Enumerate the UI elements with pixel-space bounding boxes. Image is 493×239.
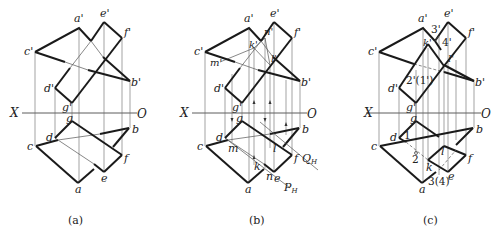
label-b-prime: b' xyxy=(475,76,485,89)
triangle-v-edge xyxy=(35,28,91,52)
label-a: a xyxy=(75,183,82,196)
label-d: d xyxy=(216,131,223,144)
label-e: e xyxy=(274,172,281,185)
label-a: a xyxy=(419,183,426,196)
label-3-4: 3(4) xyxy=(428,175,450,187)
label-f: f xyxy=(123,152,130,165)
label-2-1-prime: 2'(1') xyxy=(406,74,433,86)
label-f-prime: f' xyxy=(123,26,131,39)
label-b: b xyxy=(476,123,483,136)
label-d-prime: d' xyxy=(388,82,398,95)
caption-c: (c) xyxy=(423,214,438,227)
axis-o-label: O xyxy=(307,107,317,121)
caption-a: (a) xyxy=(68,214,83,227)
label-k: k xyxy=(426,161,433,174)
label-3-prime: 3' xyxy=(431,23,441,35)
label-c: c xyxy=(27,140,33,153)
label-c-prime: c' xyxy=(368,45,377,58)
label-f: f xyxy=(467,152,474,165)
caption-b: (b) xyxy=(249,214,265,227)
label-b: b xyxy=(132,123,139,136)
label-m: m xyxy=(228,142,238,155)
label-d: d xyxy=(46,131,53,144)
label-e-prime: e' xyxy=(444,7,454,20)
label-e-prime: e' xyxy=(100,7,110,20)
axis-o-label: O xyxy=(137,107,147,121)
label-c-prime: c' xyxy=(24,45,33,58)
label-1: 1 xyxy=(404,129,411,141)
label-g: g xyxy=(410,112,417,125)
label-b-prime: b' xyxy=(131,76,141,89)
label-n: n xyxy=(266,170,273,183)
axis-x-label: X xyxy=(179,106,189,120)
panel-a: a' e' f' c' b' d' g' g d c b f e a X O (… xyxy=(9,7,147,227)
label-f-prime: f' xyxy=(467,26,475,39)
label-l: l xyxy=(441,145,445,158)
label-d: d xyxy=(390,131,397,144)
label-l-prime: l' xyxy=(271,53,277,64)
label-l: l xyxy=(273,142,277,155)
label-b: b xyxy=(302,123,309,136)
panel-b: a' e' f' c' b' d' g' k' n' m' l' g d c b… xyxy=(179,7,318,227)
label-d-prime: d' xyxy=(44,82,54,95)
label-c-prime: c' xyxy=(194,45,203,58)
projection-diagram: a' e' f' c' b' d' g' g d c b f e a X O (… xyxy=(0,0,493,239)
label-p-h: PH xyxy=(283,181,298,195)
label-k-prime: k' xyxy=(249,39,258,50)
panel-c: a' e' f' c' b' d' g' k' l' 3' 4' 2'(1') … xyxy=(363,7,491,227)
label-e-prime: e' xyxy=(270,7,280,20)
label-4-prime: 4' xyxy=(442,36,452,48)
label-a-prime: a' xyxy=(74,12,84,25)
label-g: g xyxy=(236,112,243,125)
label-q-h: QH xyxy=(302,152,318,166)
label-d-prime: d' xyxy=(214,82,224,95)
axis-o-label: O xyxy=(481,107,491,121)
label-b-prime: b' xyxy=(301,76,311,89)
label-g: g xyxy=(66,112,73,125)
label-l-prime: l' xyxy=(448,53,454,64)
label-n-prime: n' xyxy=(264,26,273,37)
axis-x-label: X xyxy=(363,106,373,120)
label-a-prime: a' xyxy=(244,12,254,25)
label-c: c xyxy=(197,140,203,153)
label-c: c xyxy=(371,140,377,153)
label-a-prime: a' xyxy=(418,12,428,25)
label-m-prime: m' xyxy=(210,57,222,68)
label-e: e xyxy=(101,172,108,185)
label-f-prime: f' xyxy=(293,26,301,39)
label-a: a xyxy=(245,183,252,196)
label-k-prime: k' xyxy=(423,37,432,48)
axis-x-label: X xyxy=(9,106,19,120)
label-k: k xyxy=(254,160,261,173)
label-2: 2 xyxy=(412,153,419,165)
